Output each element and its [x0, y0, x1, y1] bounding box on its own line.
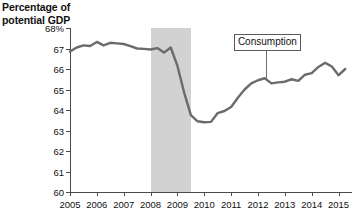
y-axis-tick-label: 67: [53, 44, 64, 54]
x-axis-tick-label: 2005: [59, 200, 80, 210]
x-axis-tick-label: 2012: [247, 200, 268, 210]
y-axis-tick-label: 61: [53, 167, 64, 177]
series-layer: [70, 28, 352, 193]
y-axis-title-line1: Percentage of: [2, 1, 70, 13]
y-axis-tick-label: 65: [53, 85, 64, 95]
x-axis-tick-label: 2014: [301, 200, 322, 210]
annotation-label-consumption: Consumption: [234, 34, 301, 51]
y-axis-tick-label: 63: [53, 126, 64, 136]
x-axis-tick-label: 2015: [328, 200, 349, 210]
y-axis-tick-label: 60: [53, 188, 64, 198]
x-axis-tick-label: 2006: [86, 200, 107, 210]
x-axis-tick-label: 2013: [274, 200, 295, 210]
chart-container: Percentage ofpotential GDP 6061626364656…: [0, 0, 354, 217]
series-line-consumption: [70, 42, 345, 122]
x-axis-tick-label: 2011: [221, 200, 241, 210]
x-axis-tick-label: 2007: [113, 200, 134, 210]
y-axis-tick-label: 64: [53, 106, 64, 116]
x-axis-tick-label: 2009: [167, 200, 188, 210]
y-axis-tick-label: 68%: [45, 24, 64, 34]
y-axis-tick-label: 62: [53, 147, 64, 157]
plot-area: 606162636465666768% 20052006200720082009…: [70, 28, 352, 193]
x-axis-tick-label: 2008: [140, 200, 161, 210]
y-axis-tick-label: 66: [53, 65, 64, 75]
x-axis-tick-label: 2010: [194, 200, 215, 210]
